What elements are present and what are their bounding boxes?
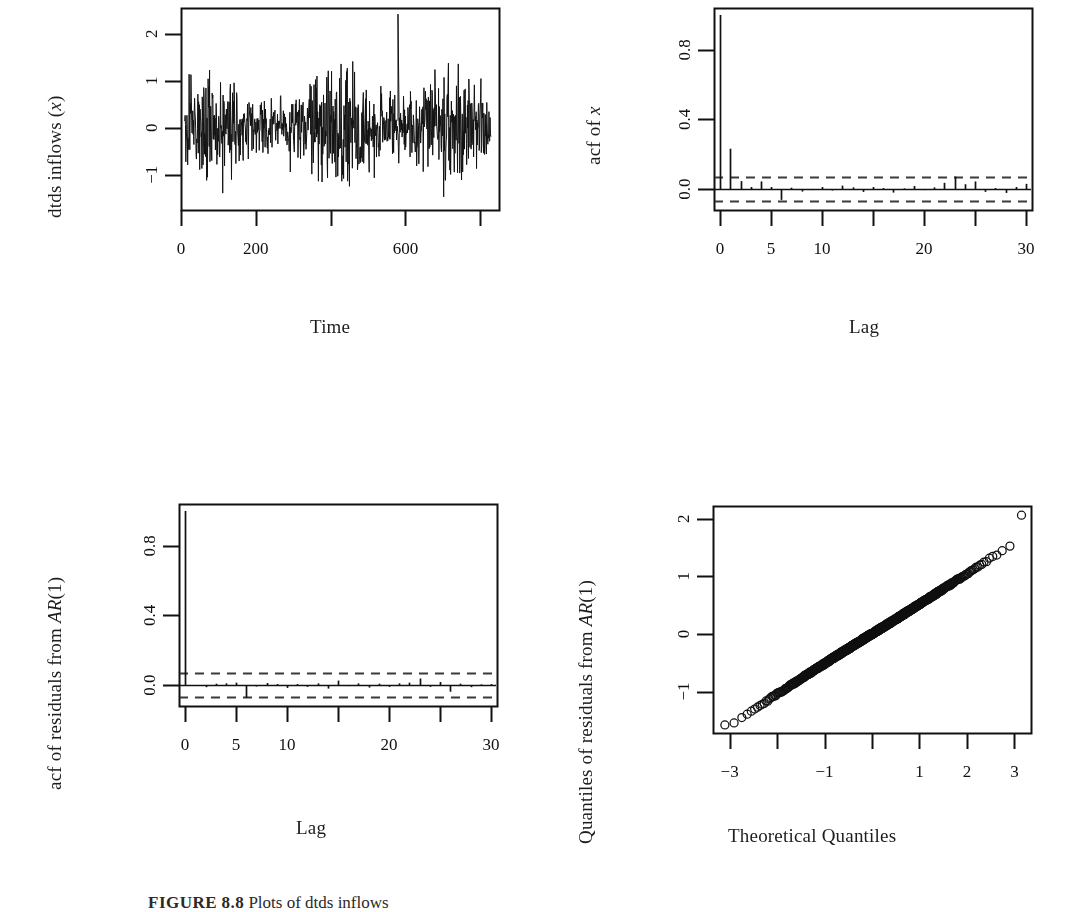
caption-prefix: FIGURE (148, 893, 217, 912)
qq-y-title-italic-ar: AR (575, 603, 596, 627)
qq-y-axis-title: Quantiles of residuals from AR(1) (575, 580, 597, 844)
acf-x-y-title-italic-x: x (583, 106, 604, 115)
qq-x-axis-title: Theoretical Quantiles (728, 825, 896, 847)
acf-resid-y-title-part-1: acf of residuals from (44, 623, 65, 790)
acf-residuals-y-axis-title: acf of residuals from AR(1) (44, 577, 66, 790)
y-title-part-3: ) (44, 96, 65, 103)
panel-qq-plot: Quantiles of residuals from AR(1) Theore… (535, 440, 1075, 860)
y-title-italic-x: x (44, 102, 65, 111)
qq-plot-canvas (535, 440, 1075, 860)
acf-x-y-title-part-1: acf of (583, 115, 604, 165)
y-title-part-1: dtds inflows ( (44, 111, 65, 218)
acf-x-plot-canvas (535, 0, 1075, 360)
timeseries-x-axis-title: Time (310, 316, 350, 338)
qq-y-title-part-3: (1) (575, 580, 596, 603)
timeseries-y-axis-title: dtds inflows (x) (44, 96, 66, 218)
caption-text: Plots of dtds inflows (248, 893, 388, 912)
acf-x-x-axis-title: Lag (849, 316, 879, 338)
acf-resid-y-title-italic-ar: AR (44, 599, 65, 623)
panel-timeseries: dtds inflows (x) Time (0, 0, 540, 360)
timeseries-plot-canvas (0, 0, 540, 360)
qq-y-title-part-1: Quantiles of residuals from (575, 626, 596, 844)
acf-residuals-x-axis-title: Lag (296, 817, 326, 839)
acf-resid-y-title-part-3: (1) (44, 577, 65, 600)
caption-number: 8.8 (221, 893, 244, 912)
acf-x-y-axis-title: acf of x (583, 106, 605, 165)
figure-caption: FIGURE 8.8 Plots of dtds inflows (148, 893, 389, 912)
panel-acf-of-x: acf of x Lag (535, 0, 1075, 360)
acf-residuals-plot-canvas (0, 440, 540, 860)
panel-acf-of-residuals: acf of residuals from AR(1) Lag (0, 440, 540, 860)
